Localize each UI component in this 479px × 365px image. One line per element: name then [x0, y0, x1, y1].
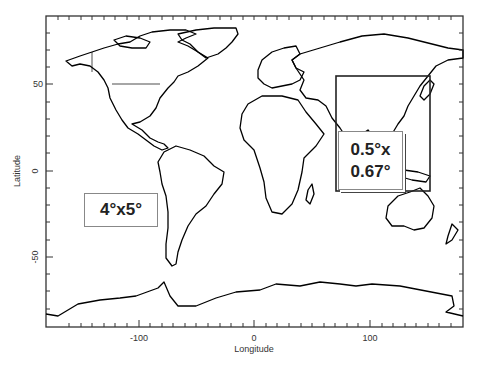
xtick-label-m100: -100: [130, 333, 148, 343]
fine-resolution-text-line2: 0.67°: [351, 161, 391, 183]
ytick-label-m50: -50: [30, 250, 40, 263]
x-axis-title: Longitude: [234, 344, 274, 354]
xtick-label-100: 100: [362, 333, 377, 343]
ytick-label-50: 50: [33, 79, 43, 89]
y-axis-title: Latitude: [12, 155, 22, 187]
fine-resolution-label: 0.5°x 0.67°: [338, 131, 403, 190]
ytick-label-0: 0: [30, 168, 40, 173]
coarse-resolution-label: 4°x5°: [84, 193, 158, 227]
xtick-label-0: 0: [251, 333, 256, 343]
fine-resolution-text-line1: 0.5°x: [351, 139, 391, 161]
world-map-figure: -100 0 100 Longitude 50 0 -50 Latitude: [0, 0, 479, 365]
coarse-resolution-text: 4°x5°: [100, 200, 142, 220]
